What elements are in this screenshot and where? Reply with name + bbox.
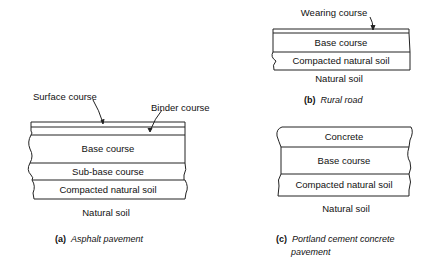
- caption-c-text-line2: pavement: [291, 247, 331, 257]
- binder-course-label: Binder course: [151, 102, 210, 113]
- surface-course-label: Surface course: [33, 91, 97, 102]
- base-course-label: Base course: [315, 37, 368, 48]
- caption-c: (c) Portland cement concrete: [276, 234, 395, 244]
- caption-b: (b) Rural road: [304, 95, 363, 105]
- sub-base-course-label: Sub-base course: [72, 166, 144, 177]
- compacted-natural-soil-label: Compacted natural soil: [295, 179, 392, 190]
- natural-soil-label: Natural soil: [322, 203, 370, 214]
- caption-a-letter: (a): [55, 234, 66, 244]
- caption-b-text: Rural road: [321, 95, 363, 105]
- wearing-course-label: Wearing course: [301, 7, 367, 18]
- compacted-natural-soil-label: Compacted natural soil: [59, 184, 156, 195]
- natural-soil-label: Natural soil: [315, 73, 363, 84]
- caption-c-letter: (c): [276, 234, 287, 244]
- caption-b-letter: (b): [304, 95, 316, 105]
- concrete-label: Concrete: [325, 131, 364, 142]
- base-course-label: Base course: [318, 155, 371, 166]
- compacted-natural-soil-label: Compacted natural soil: [292, 55, 389, 66]
- caption-c-text-line1: Portland cement concrete: [292, 234, 395, 244]
- caption-a-text: Asphalt pavement: [71, 234, 143, 244]
- pavement-layers-drawing: [0, 0, 436, 264]
- caption-c-line2: pavement: [291, 247, 331, 257]
- caption-a: (a) Asphalt pavement: [55, 234, 143, 244]
- base-course-label: Base course: [82, 143, 135, 154]
- natural-soil-label: Natural soil: [82, 207, 130, 218]
